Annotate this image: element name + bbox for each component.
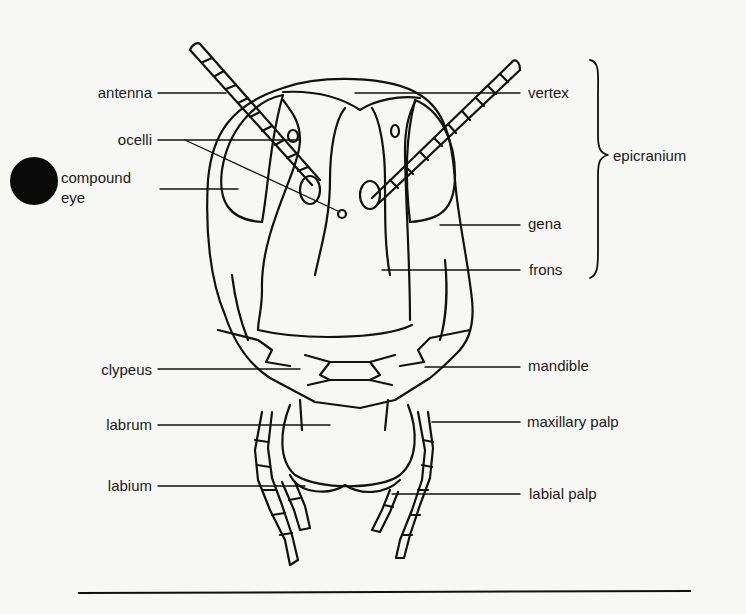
label-labrum: labrum: [60, 416, 152, 433]
label-mandible: mandible: [528, 357, 589, 374]
label-labium: labium: [60, 477, 152, 494]
label-compound-eye-line1: compound: [61, 169, 131, 186]
marker-dot: [10, 157, 58, 205]
label-vertex: vertex: [528, 84, 569, 101]
label-labial-palp: labial palp: [529, 485, 597, 502]
label-compound-eye-line2: eye: [61, 189, 85, 206]
epicranium-bracket: [590, 60, 608, 278]
left-maxillary-palp: [255, 412, 298, 565]
label-antenna: antenna: [60, 84, 152, 101]
left-compound-eye: [221, 95, 283, 222]
label-ocelli: ocelli: [60, 131, 152, 148]
label-clypeus: clypeus: [60, 361, 152, 378]
label-maxillary-palp: maxillary palp: [527, 413, 619, 430]
label-epicranium: epicranium: [613, 147, 686, 164]
head-outline: [207, 79, 472, 408]
right-ocellus: [391, 125, 399, 137]
clypeus-outline: [305, 355, 395, 385]
label-gena: gena: [528, 215, 561, 232]
right-labial-palp: [372, 490, 398, 532]
label-frons: frons: [529, 261, 562, 278]
right-compound-eye: [407, 100, 455, 222]
